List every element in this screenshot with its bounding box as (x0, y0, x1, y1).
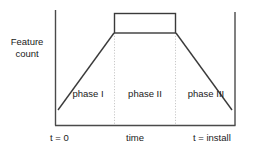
plateau-rectangle (115, 14, 176, 34)
x-axis-end-tick-label: t = install (193, 132, 231, 144)
phase-3-label: phase III (180, 88, 232, 100)
phase-1-label: phase I (64, 88, 112, 100)
y-axis-label: Feature count (2, 36, 52, 59)
y-axis-label-line2: count (2, 48, 52, 60)
feature-count-phase-diagram: Feature count phase I phase II phase III… (0, 0, 253, 156)
phase-2-label: phase II (118, 88, 172, 100)
y-axis-label-line1: Feature (2, 36, 52, 48)
x-axis-start-tick-label: t = 0 (50, 132, 69, 144)
x-axis-label: time (112, 132, 158, 144)
